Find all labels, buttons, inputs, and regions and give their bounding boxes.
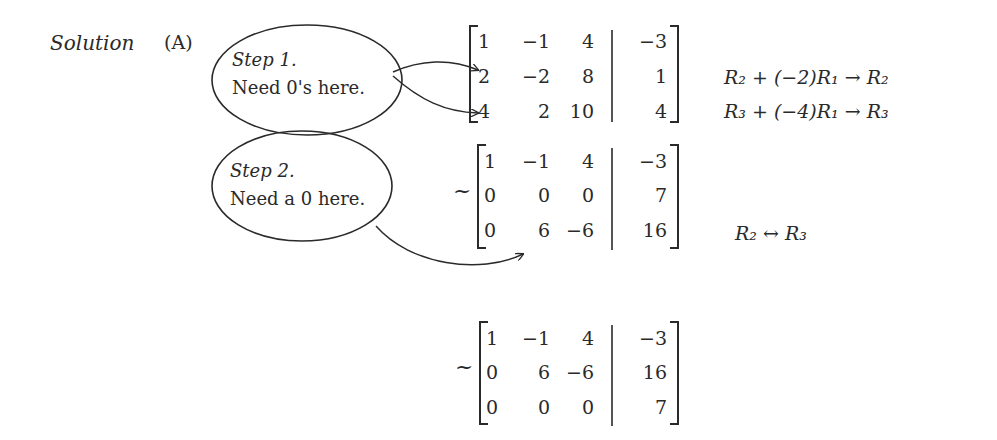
matrix2-cell: 4 [554, 150, 594, 172]
matrix2-cell: 16 [627, 219, 667, 241]
matrix1-cell: 10 [554, 100, 594, 122]
matrix3-cell: 6 [510, 361, 550, 383]
matrix2-cell: −6 [554, 219, 594, 241]
matrix1-cell: −2 [510, 65, 550, 87]
row-op-1: R₂ + (−2)R₁ → R₂ [724, 66, 889, 88]
matrix3-cell: 1 [458, 327, 498, 349]
matrix2-cell: 1 [456, 150, 496, 172]
matrix1-right-bracket [670, 26, 678, 122]
matrix3-cell: −6 [554, 361, 594, 383]
solution-label: Solution [50, 31, 134, 55]
matrix1-cell: 1 [450, 30, 490, 52]
matrix2-cell: 7 [627, 184, 667, 206]
matrix1-cell: 1 [627, 65, 667, 87]
matrix3-cell: 0 [458, 361, 498, 383]
matrix1-cell: 2 [450, 65, 490, 87]
step1-note: Need 0's here. [232, 74, 365, 102]
matrix1-cell: −3 [627, 30, 667, 52]
matrix1-cell: 4 [554, 30, 594, 52]
step2-bubble: Step 2. Need a 0 here. [230, 157, 365, 213]
row-op-swap: R₂ ↔ R₃ [735, 222, 807, 244]
matrix3-right-bracket [670, 322, 678, 424]
matrix2-right-bracket [670, 145, 678, 248]
matrix2-cell: 6 [510, 219, 550, 241]
matrix2-cell: −1 [510, 150, 550, 172]
matrix2-cell: 0 [554, 184, 594, 206]
step1-bubble: Step 1. Need 0's here. [232, 46, 365, 102]
matrix1-cell: 4 [450, 100, 490, 122]
matrix1-cell: 2 [510, 100, 550, 122]
matrix3-cell: 0 [554, 396, 594, 418]
matrix3-cell: 0 [458, 396, 498, 418]
row-op-2: R₃ + (−4)R₁ → R₃ [724, 100, 889, 122]
matrix2-cell: 0 [510, 184, 550, 206]
part-label: (A) [164, 31, 193, 53]
step2-arrow-icon [376, 226, 523, 265]
matrix3-cell: 4 [554, 327, 594, 349]
matrix1-cell: 4 [627, 100, 667, 122]
step2-note: Need a 0 here. [230, 185, 365, 213]
matrix2-cell: 0 [456, 219, 496, 241]
step2-title: Step 2. [230, 157, 365, 185]
matrix3-cell: −1 [510, 327, 550, 349]
matrix2-cell: 0 [456, 184, 496, 206]
matrix1-cell: −1 [510, 30, 550, 52]
step1-title: Step 1. [232, 46, 365, 74]
matrix3-cell: 16 [627, 361, 667, 383]
matrix3-cell: −3 [627, 327, 667, 349]
matrix3-cell: 0 [510, 396, 550, 418]
matrix2-cell: −3 [627, 150, 667, 172]
matrix1-cell: 8 [554, 65, 594, 87]
matrix3-cell: 7 [627, 396, 667, 418]
